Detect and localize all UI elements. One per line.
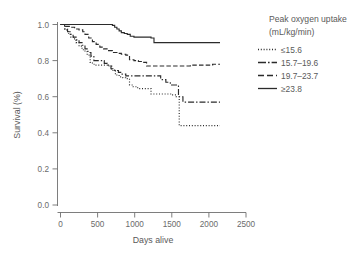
legend-label-2: 19.7–23.7: [281, 71, 319, 81]
x-tick-label-2500: 2500: [237, 220, 256, 229]
legend-item-0[interactable]: ≤15.6: [258, 45, 302, 55]
legend-item-3[interactable]: ≥23.8: [258, 84, 302, 94]
x-tick-label-1500: 1500: [163, 220, 182, 229]
y-tick-marks: [53, 25, 58, 206]
curve-series-2: [61, 25, 221, 67]
curves-group: [61, 25, 221, 126]
legend-item-2[interactable]: 19.7–23.7: [258, 71, 319, 81]
y-tick-label-04: 0.4: [38, 129, 50, 138]
x-tick-label-500: 500: [91, 220, 105, 229]
legend-title-line1: Peak oxygen uptake: [269, 14, 347, 24]
legend-title-line2: (mL/kg/min): [269, 27, 314, 37]
curve-series-0: [61, 25, 221, 126]
y-tick-label-1: 1.0: [38, 21, 50, 30]
curve-series-1: [61, 25, 221, 103]
axes-group: [58, 22, 247, 213]
figure-caption-clipped: [0, 252, 352, 264]
y-tick-label-08: 0.8: [38, 57, 50, 66]
x-tick-label-2000: 2000: [200, 220, 219, 229]
y-tick-label-0: 0.0: [38, 201, 50, 210]
legend-label-3: ≥23.8: [281, 84, 302, 94]
legend-label-0: ≤15.6: [281, 45, 302, 55]
figure-container: 1.0 0.8 0.6 0.4 0.2 0.0 0 500 1000 1500 …: [0, 0, 352, 264]
legend-label-1: 15.7–19.6: [281, 58, 319, 68]
x-tick-label-1000: 1000: [126, 220, 145, 229]
legend: Peak oxygen uptake (mL/kg/min) ≤15.6 15.…: [258, 14, 347, 94]
legend-item-1[interactable]: 15.7–19.6: [258, 58, 319, 68]
y-axis-title: Survival (%): [12, 91, 22, 138]
x-tick-label-0: 0: [58, 220, 63, 229]
x-axis-title: Days alive: [133, 235, 174, 245]
y-tick-label-06: 0.6: [38, 93, 50, 102]
survival-chart: 1.0 0.8 0.6 0.4 0.2 0.0 0 500 1000 1500 …: [0, 0, 352, 264]
x-tick-marks: [61, 213, 247, 218]
y-tick-label-02: 0.2: [38, 165, 50, 174]
